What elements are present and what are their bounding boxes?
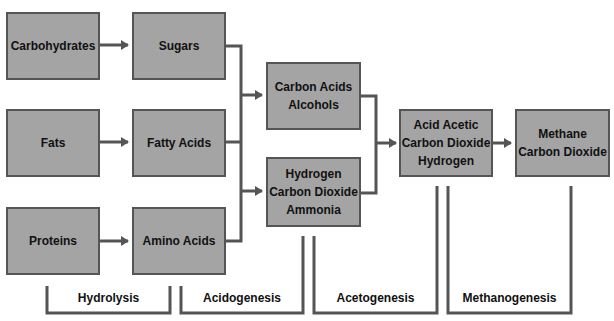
node-label: Hydrogen bbox=[285, 165, 341, 183]
node-label: Carbohydrates bbox=[11, 37, 96, 55]
methanogenesis-label: Methanogenesis bbox=[448, 291, 571, 305]
node-label: Carbon Dioxide bbox=[269, 183, 358, 201]
acid-acetic-node: Acid Acetic Carbon Dioxide Hydrogen bbox=[399, 109, 493, 177]
methane-node: Methane Carbon Dioxide bbox=[515, 109, 610, 177]
node-label: Proteins bbox=[29, 232, 77, 250]
node-label: Amino Acids bbox=[143, 232, 216, 250]
acetogenesis-label: Acetogenesis bbox=[314, 291, 437, 305]
node-label: Alcohols bbox=[288, 96, 339, 114]
sugars-node: Sugars bbox=[132, 12, 226, 80]
hydrolysis-label: Hydrolysis bbox=[47, 291, 170, 305]
node-label: Carbon Acids bbox=[275, 78, 353, 96]
node-label: Fatty Acids bbox=[147, 134, 211, 152]
proteins-node: Proteins bbox=[6, 207, 100, 275]
fatty-acids-node: Fatty Acids bbox=[132, 109, 226, 177]
node-label: Carbon Dioxide bbox=[518, 143, 607, 161]
node-label: Sugars bbox=[159, 37, 200, 55]
acidogenesis-label: Acidogenesis bbox=[181, 291, 303, 305]
node-label: Carbon Dioxide bbox=[402, 134, 491, 152]
node-label: Ammonia bbox=[286, 201, 341, 219]
node-label: Acid Acetic bbox=[414, 116, 479, 134]
node-label: Fats bbox=[41, 134, 66, 152]
fats-node: Fats bbox=[6, 109, 100, 177]
amino-acids-node: Amino Acids bbox=[132, 207, 226, 275]
carbon-acids-alcohols-node: Carbon Acids Alcohols bbox=[266, 62, 361, 130]
node-label: Hydrogen bbox=[418, 152, 474, 170]
hydrogen-co2-ammonia-node: Hydrogen Carbon Dioxide Ammonia bbox=[266, 157, 361, 227]
node-label: Methane bbox=[538, 125, 587, 143]
anaerobic-digestion-diagram: Carbohydrates Fats Proteins Sugars Fatty… bbox=[0, 0, 614, 321]
carbohydrates-node: Carbohydrates bbox=[6, 12, 100, 80]
